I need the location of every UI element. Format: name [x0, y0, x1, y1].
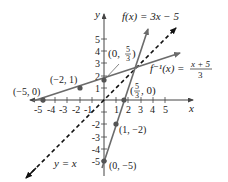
point-0-neg5: [101, 158, 106, 163]
svg-text:-1: -1: [84, 104, 92, 115]
svg-text:1: 1: [114, 104, 119, 115]
svg-text:f⁻¹(x) =: f⁻¹(x) =: [150, 62, 185, 75]
point-label-neg5-0: (−5, 0): [13, 86, 40, 98]
svg-text:): ): [132, 47, 136, 60]
y-axis-label: y: [94, 8, 100, 20]
svg-text:, 0): , 0): [141, 84, 156, 97]
point-label-5thirds-0: ( 5 3 , 0): [130, 82, 156, 100]
point-1-neg2: [113, 121, 118, 126]
svg-text:-3: -3: [59, 104, 67, 115]
x-axis-label: x: [188, 102, 194, 114]
function-label: f(x) = 3x − 5: [122, 10, 179, 23]
point-neg5-0: [40, 97, 45, 102]
point-label-neg2-1: (−2, 1): [50, 74, 77, 86]
svg-text:3: 3: [135, 91, 139, 100]
svg-text:3: 3: [95, 58, 100, 69]
svg-text:3: 3: [126, 54, 130, 63]
svg-text:2: 2: [126, 104, 131, 115]
point-5thirds-0: [121, 97, 126, 102]
svg-text:-2: -2: [72, 104, 80, 115]
inverse-function-label: f⁻¹(x) = x + 5 3: [150, 59, 212, 80]
identity-line: [27, 28, 176, 177]
svg-text:5: 5: [95, 34, 100, 45]
svg-text:x + 5: x + 5: [190, 59, 211, 69]
svg-text:5: 5: [126, 45, 130, 54]
svg-text:-5: -5: [92, 156, 100, 167]
svg-text:5: 5: [135, 82, 139, 91]
svg-text:3: 3: [198, 70, 203, 80]
identity-label: y = x: [53, 157, 77, 169]
svg-text:(0,: (0,: [108, 47, 120, 60]
svg-text:-2: -2: [92, 119, 100, 130]
svg-text:-4: -4: [92, 144, 100, 155]
svg-text:(: (: [130, 84, 134, 97]
svg-text:5: 5: [163, 104, 168, 115]
x-tick-labels: -5 -4 -3 -2 -1 1 2 3 4 5: [34, 104, 168, 115]
identity-line-tail-arrow: [26, 168, 36, 178]
svg-text:-3: -3: [92, 132, 100, 143]
svg-text:1: 1: [95, 83, 100, 94]
point-label-0-5thirds: (0, 5 3 ): [108, 45, 136, 63]
svg-text:4: 4: [150, 104, 155, 115]
svg-text:4: 4: [95, 46, 100, 57]
function-inverse-graph: x y -5 -4 -3 -2 -1 1 2 3 4 5: [0, 0, 228, 182]
point-neg2-1: [77, 85, 82, 90]
point-label-0-neg5: (0, −5): [109, 160, 136, 172]
svg-text:3: 3: [138, 104, 143, 115]
leader-line: [105, 64, 119, 79]
svg-text:-4: -4: [47, 104, 55, 115]
svg-text:-5: -5: [34, 104, 42, 115]
point-label-1-neg2: (1, −2): [119, 124, 146, 136]
